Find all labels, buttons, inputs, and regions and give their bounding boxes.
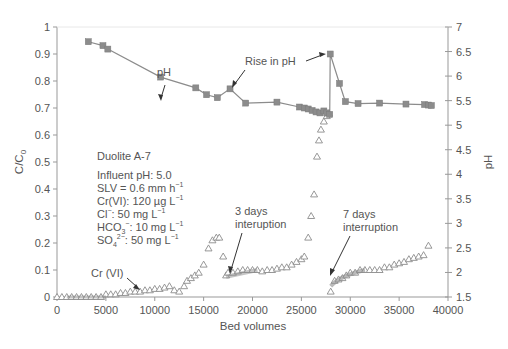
arrowhead-rise-2-icon: [319, 52, 326, 57]
y2-tick-label: 4: [456, 168, 462, 180]
cr-vi-point: [314, 153, 321, 159]
y2-tick-label: 5.5: [456, 95, 471, 107]
ph-point: [204, 92, 210, 98]
y2-tick-label: 6: [456, 70, 462, 82]
x-tick-label: 25000: [286, 304, 317, 316]
ph-point: [428, 103, 434, 109]
crvi-conc: Cr(VI): 120 µg L−1: [97, 195, 183, 208]
ph-series: [85, 39, 434, 118]
y-axis-title: C/C0: [13, 149, 28, 174]
cr-vi-point: [200, 261, 207, 267]
x-axis: 0500010000150002000025000300003500040000: [54, 297, 463, 316]
x-axis-title: Bed volumes: [220, 320, 287, 332]
cr-vi-point: [305, 234, 312, 240]
x-tick-label: 40000: [433, 304, 464, 316]
y-axis-left: 00.10.20.30.40.50.60.70.80.91: [35, 21, 57, 303]
annotation-rise-in-ph: Rise in pH: [245, 55, 296, 67]
annotation-3-days: 3 days: [235, 205, 268, 217]
y-tick-label: 0: [44, 291, 50, 303]
y2-tick-label: 7: [456, 21, 462, 33]
ph-point: [243, 100, 249, 106]
y2-tick-label: 3.5: [456, 193, 471, 205]
y-tick-label: 0.5: [35, 156, 50, 168]
ph-point: [377, 100, 383, 106]
annotation-7-days: 7 days: [343, 208, 376, 220]
cr-vi-point: [420, 252, 427, 258]
y2-axis-title: pH: [482, 155, 494, 170]
y-tick-label: 0.2: [35, 237, 50, 249]
y-axis-right: 1.522.533.544.555.566.57: [445, 21, 471, 303]
x-tick-label: 0: [54, 304, 60, 316]
arrowhead-ph-icon: [158, 94, 163, 101]
ph-point: [355, 101, 361, 107]
y-tick-label: 0.4: [35, 183, 50, 195]
influent-ph: Influent pH: 5.0: [97, 169, 183, 182]
y-tick-label: 0.7: [35, 102, 50, 114]
x-tick-label: 30000: [335, 304, 366, 316]
ph-point: [327, 51, 333, 57]
arrow-3-days: [231, 233, 242, 270]
cr-vi-point: [315, 137, 322, 143]
x-tick-label: 20000: [237, 304, 268, 316]
annotation-3-days-2: interuption: [235, 218, 286, 230]
annotation-cr-vi: Cr (VI): [91, 267, 123, 279]
x-tick-label: 5000: [94, 304, 118, 316]
cr-vi-point: [311, 191, 318, 197]
y-tick-label: 0.1: [35, 264, 50, 276]
arrowhead-7-days-icon: [330, 268, 335, 276]
ph-point: [327, 111, 333, 117]
y2-tick-label: 2: [456, 266, 462, 278]
ph-point: [214, 95, 220, 101]
slv: SLV = 0.6 mm h−1: [97, 182, 183, 195]
cl-conc: Cl−: 50 mg L−1: [97, 208, 183, 221]
y-tick-label: 0.6: [35, 129, 50, 141]
ph-point: [336, 80, 342, 86]
cr-vi-point: [220, 253, 227, 259]
y-tick-label: 1: [44, 21, 50, 33]
x-tick-label: 15000: [188, 304, 219, 316]
y-tick-label: 0.3: [35, 210, 50, 222]
hco3-conc: HCO3−: 10 mg L−1: [97, 221, 183, 234]
ph-point: [227, 86, 233, 92]
x-tick-label: 10000: [139, 304, 170, 316]
breakthrough-chart: 0500010000150002000025000300003500040000…: [0, 0, 508, 349]
arrow-rise-2: [306, 55, 322, 61]
x-tick-label: 35000: [384, 304, 415, 316]
ph-point: [274, 99, 280, 105]
y-tick-label: 0.8: [35, 75, 50, 87]
annotation-ph: pH: [157, 66, 171, 78]
y2-tick-label: 3: [456, 217, 462, 229]
resin-label: Duolite A-7: [97, 150, 151, 163]
arrow-7-days: [332, 236, 350, 272]
ph-point: [85, 39, 91, 45]
ph-point: [342, 99, 348, 105]
cr-vi-point: [308, 213, 315, 219]
y-tick-label: 0.9: [35, 48, 50, 60]
cr-vi-point: [205, 245, 212, 251]
y2-tick-label: 5: [456, 119, 462, 131]
y2-tick-label: 6.5: [456, 46, 471, 58]
conditions-box: Influent pH: 5.0 SLV = 0.6 mm h−1 Cr(VI)…: [97, 169, 183, 247]
y2-tick-label: 1.5: [456, 291, 471, 303]
cr-vi-point: [166, 283, 173, 289]
ph-point: [193, 85, 199, 91]
cr-vi-point: [317, 126, 324, 132]
cr-vi-point: [425, 242, 432, 248]
y2-tick-label: 2.5: [456, 242, 471, 254]
ph-point: [105, 46, 111, 52]
y2-tick-label: 4.5: [456, 144, 471, 156]
ph-point: [403, 101, 409, 107]
so4-conc: SO42−: 50 mg L−1: [97, 234, 183, 247]
annotation-7-days-2: interruption: [343, 221, 398, 233]
cr-vi-point: [327, 288, 334, 294]
cr-vi-point: [195, 269, 202, 275]
